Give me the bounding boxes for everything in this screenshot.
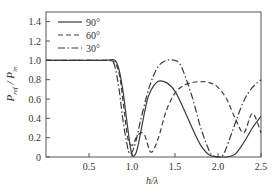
y-tick-label: 0.4 [29,113,42,124]
y-tick-label: 0.6 [29,94,42,105]
legend-label: 30° [86,43,100,54]
legend-label: 60° [86,30,100,41]
chart-container: 00.20.40.60.81.01.21.40.51.01.52.02.5 90… [0,0,280,194]
y-tick-label: 1.4 [29,16,42,27]
plot-axes [46,12,261,157]
line-chart: 00.20.40.60.81.01.21.40.51.01.52.02.5 90… [0,0,280,194]
x-tick-label: 0.5 [83,161,96,172]
y-tick-label: 0 [36,152,41,163]
x-tick-label: 1.0 [126,161,139,172]
y-tick-label: 1.0 [29,55,42,66]
data-series [46,60,261,157]
x-tick-label: 1.5 [169,161,182,172]
series-line-30deg [46,60,261,157]
series-line-60deg [46,60,261,152]
legend-label: 90° [86,17,100,28]
y-tick-label: 1.2 [29,36,42,47]
y-axis-label: Pref / Pin [4,66,19,103]
chart-legend: 90°60°30° [58,17,100,54]
x-tick-label: 2.0 [212,161,225,172]
plot-frame [46,12,261,157]
x-axis-label: h/λ [146,175,159,186]
y-tick-label: 0.2 [29,132,42,143]
x-tick-label: 2.5 [255,161,268,172]
y-tick-label: 0.8 [29,74,42,85]
axis-ticks: 00.20.40.60.81.01.21.40.51.01.52.02.5 [29,16,268,172]
